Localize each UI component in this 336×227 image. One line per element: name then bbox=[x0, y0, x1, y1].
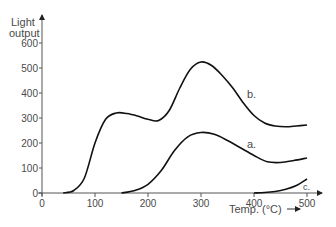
y-tick-label: 500 bbox=[21, 63, 38, 74]
y-ticks: 0100200300400500600 bbox=[21, 38, 42, 199]
x-tick-label: 200 bbox=[140, 198, 157, 209]
x-axis-label: Temp. (°C) bbox=[229, 203, 282, 215]
y-tick-label: 400 bbox=[21, 88, 38, 99]
series-label-a: a. bbox=[247, 138, 256, 150]
curve-a bbox=[122, 132, 308, 193]
x-tick-label: 100 bbox=[87, 198, 104, 209]
x-tick-label: 300 bbox=[193, 198, 210, 209]
curve-b bbox=[63, 62, 307, 193]
series-label-c: c. bbox=[303, 182, 310, 192]
chart: Light output 0100200300400500600 0100200… bbox=[0, 0, 336, 227]
y-tick-label: 600 bbox=[21, 38, 38, 49]
curve-c bbox=[254, 179, 307, 193]
x-tick-label: 0 bbox=[39, 198, 45, 209]
series-label-b: b. bbox=[247, 88, 256, 100]
y-tick-label: 200 bbox=[21, 138, 38, 149]
y-tick-label: 100 bbox=[21, 163, 38, 174]
series-curves bbox=[63, 62, 307, 193]
x-tick-label: 500 bbox=[299, 198, 316, 209]
y-tick-label: 0 bbox=[32, 188, 38, 199]
y-tick-label: 300 bbox=[21, 113, 38, 124]
